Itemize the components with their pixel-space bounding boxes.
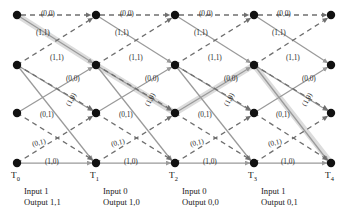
edge-label-bot-0: (1,0) xyxy=(45,157,59,166)
node-r2c4 xyxy=(327,109,335,117)
stage-2-output: Output 0,0 xyxy=(182,197,219,208)
time-label-t2: T2 xyxy=(169,170,178,182)
highlight-survivor-path xyxy=(17,15,331,163)
node-r1c0 xyxy=(13,61,21,69)
node-r2c1 xyxy=(92,109,100,117)
node-r3c0 xyxy=(13,159,21,167)
node-r2c0 xyxy=(13,109,21,117)
stage-0-output: Output 1,1 xyxy=(24,197,61,208)
edge-label-u11-1: (1,1) xyxy=(129,53,143,62)
stage-1-output: Output 1,0 xyxy=(103,197,140,208)
stage-3-input: Input 1 xyxy=(261,186,298,197)
node-r1c2 xyxy=(171,61,179,69)
stage-3-output: Output 0,1 xyxy=(261,197,298,208)
node-r2c2 xyxy=(171,109,179,117)
stage-0-input: Input 1 xyxy=(24,186,61,197)
node-r1c3 xyxy=(250,61,258,69)
node-r1c1 xyxy=(92,61,100,69)
time-label-t1: T1 xyxy=(90,170,99,182)
stage-caption-2: Input 0 Output 0,0 xyxy=(182,186,219,208)
node-r0c0 xyxy=(13,11,21,19)
time-label-t4-sub: 4 xyxy=(331,175,334,182)
node-r3c1 xyxy=(92,159,100,167)
time-label-t4: T4 xyxy=(325,170,334,182)
edge-label-top-3: (0,0) xyxy=(277,9,291,18)
node-r0c3 xyxy=(250,11,258,19)
edge-label-r2-01-2: (0,1) xyxy=(198,110,212,119)
edge-label-bot-2: (1,0) xyxy=(203,157,217,166)
edge-label-r1-00-3: (0,0) xyxy=(302,74,316,83)
edge-label-r1-00-0: (0,0) xyxy=(66,74,80,83)
node-r0c2 xyxy=(171,11,179,19)
edge-label-u11-0: (1,1) xyxy=(50,53,64,62)
edge-label-r1-00-1: (0,0) xyxy=(145,74,159,83)
edge-label-u11-2: (1,1) xyxy=(208,53,222,62)
node-r0c1 xyxy=(92,11,100,19)
edge-label-d11-3: (1,1) xyxy=(272,28,286,37)
time-label-t3: T3 xyxy=(248,170,257,182)
edge-label-d11-1: (1,1) xyxy=(115,28,129,37)
time-label-t2-sub: 2 xyxy=(175,175,178,182)
stage-caption-3: Input 1 Output 0,1 xyxy=(261,186,298,208)
edge-label-bot-1: (1,0) xyxy=(124,157,138,166)
node-r3c2 xyxy=(171,159,179,167)
edge-label-r2-01-0: (0,1) xyxy=(40,110,54,119)
node-r3c4 xyxy=(327,159,335,167)
trellis-nodes xyxy=(13,11,335,167)
stage-caption-1: Input 0 Output 1,0 xyxy=(103,186,140,208)
edge-label-r2-01-1: (0,1) xyxy=(119,110,133,119)
time-label-t0: T0 xyxy=(11,170,20,182)
time-label-t0-sub: 0 xyxy=(17,175,20,182)
node-r3c3 xyxy=(250,159,258,167)
edge-label-bot-3: (1,0) xyxy=(281,157,295,166)
node-r1c4 xyxy=(327,61,335,69)
stage-2-input: Input 0 xyxy=(182,186,219,197)
stage-caption-0: Input 1 Output 1,1 xyxy=(24,186,61,208)
edge-label-top-0: (0,0) xyxy=(41,9,55,18)
edge-label-r1-00-2: (0,0) xyxy=(224,74,238,83)
edge-label-top-1: (0,0) xyxy=(120,9,134,18)
edge-label-d11-2: (1,1) xyxy=(194,28,208,37)
edge-label-d11-0: (1,1) xyxy=(36,28,50,37)
edge-label-r2-01-3: (0,1) xyxy=(276,110,290,119)
time-label-t3-sub: 3 xyxy=(254,175,257,182)
stage-1-input: Input 0 xyxy=(103,186,140,197)
trellis-diagram: (0,0) (0,0) (0,0) (0,0) (1,1) (1,1) (1,1… xyxy=(0,0,349,224)
node-r0c4 xyxy=(327,11,335,19)
edge-label-u11-3: (1,1) xyxy=(286,53,300,62)
time-label-t1-sub: 1 xyxy=(96,175,99,182)
edge-label-top-2: (0,0) xyxy=(199,9,213,18)
node-r2c3 xyxy=(250,109,258,117)
